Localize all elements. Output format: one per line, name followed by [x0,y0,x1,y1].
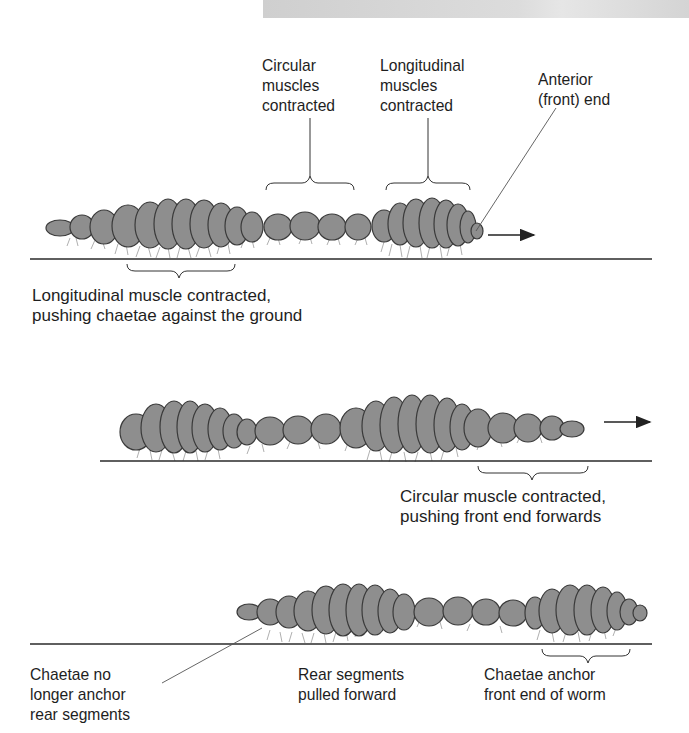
label-longitudinal-muscles-contracted: Longitudinal muscles contracted [380,56,464,116]
brace-longitudinal-stage-1 [386,118,470,190]
rear-anchor-pointer-line [162,628,262,683]
label-chaetae-anchor-front-end: Chaetae anchor front end of worm [484,665,606,705]
label-longitudinal-pushing-chaetae: Longitudinal muscle contracted, pushing … [32,286,302,326]
label-circular-muscles-contracted: Circular muscles contracted [262,56,335,116]
label-circular-pushing-front-end: Circular muscle contracted, pushing fron… [400,487,606,527]
brace-front-anchor-stage-3 [542,649,630,663]
label-rear-segments-pulled-forward: Rear segments pulled forward [298,665,404,705]
brace-circular-stage-1 [266,118,354,190]
worm-stage-3 [237,584,647,643]
anterior-pointer-line [476,108,556,231]
brace-ground-stage-1 [127,264,235,278]
worm-stage-1 [46,198,483,258]
worm-stage-2 [120,395,584,462]
brace-circular-stage-2 [478,466,588,480]
label-anterior-front-end: Anterior (front) end [538,70,610,110]
label-chaetae-no-longer-anchor: Chaetae no longer anchor rear segments [30,665,130,725]
